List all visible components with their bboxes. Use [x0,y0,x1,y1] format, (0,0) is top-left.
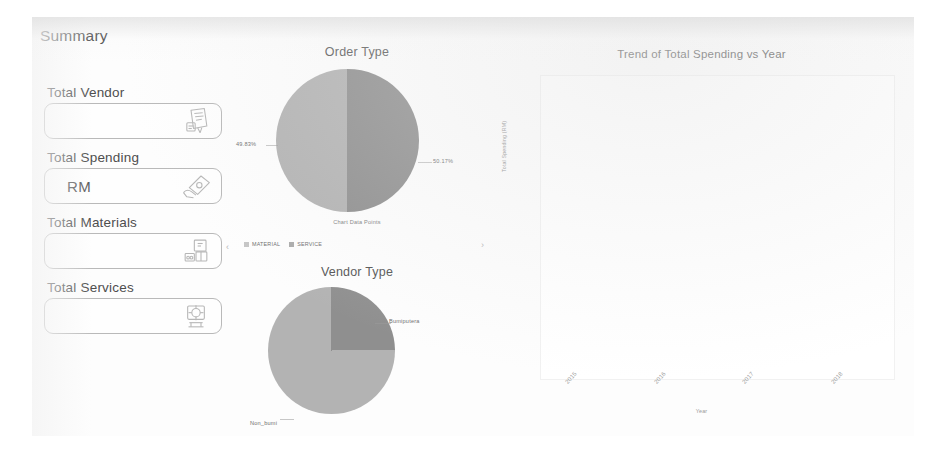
dashboard-panel: Summary Total Vendor [32,17,914,436]
trend-y-axis-label: Total Spending (RM) [501,160,507,172]
order-type-chart-title: Order Type [222,45,492,59]
trend-x-axis-ticks: 2015 2016 2017 2018 [540,381,895,407]
kpi-card-list: Total Vendor [44,85,222,345]
page-title: Summary [40,27,108,45]
service-gear-icon [179,301,213,331]
vendor-type-leader-non-bumi [280,419,294,420]
kpi-box-total-vendor[interactable] [44,103,222,139]
order-type-legend-row: ‹ MATERIAL SERVICE › [222,241,492,247]
kpi-card-total-spending[interactable]: Total Spending RM [44,150,222,204]
kpi-label-total-services: Total Services [44,280,222,295]
screenshot-root: Summary Total Vendor [0,0,946,464]
legend-label-service: SERVICE [297,241,322,247]
trend-chart-card: Trend of Total Spending vs Year Total Sp… [494,45,909,425]
kpi-box-total-materials[interactable] [44,233,222,269]
order-type-pie[interactable] [276,69,419,212]
trend-x-axis-label: Year [494,408,909,414]
order-type-legend-items: MATERIAL SERVICE [244,241,322,247]
order-type-leader-left [266,145,278,146]
legend-swatch-material-icon [244,242,249,247]
trend-plot-area[interactable] [540,75,895,380]
kpi-box-total-services[interactable] [44,298,222,334]
legend-item-service[interactable]: SERVICE [289,241,322,247]
legend-label-material: MATERIAL [252,241,280,247]
vendor-type-chart-card: Vendor Type Bumiputera Non_bumi [222,265,492,435]
kpi-card-total-services[interactable]: Total Services [44,280,222,334]
boxes-materials-icon [179,236,213,266]
kpi-box-total-spending[interactable]: RM [44,168,222,204]
order-type-slice-label-material: 49.83% [236,141,256,147]
legend-next-chevron-icon[interactable]: › [481,240,484,250]
chart-data-points-label: Chart Data Points [222,219,492,225]
hand-money-icon [179,171,213,201]
vendor-type-pie[interactable] [268,287,395,414]
kpi-label-total-vendor: Total Vendor [44,85,222,100]
legend-swatch-service-icon [289,242,294,247]
kpi-card-total-vendor[interactable]: Total Vendor [44,85,222,139]
vendor-type-chart-title: Vendor Type [222,265,492,279]
kpi-card-total-materials[interactable]: Total Materials [44,215,222,269]
order-type-chart-card: Order Type 49.83% 50.17% Chart Data Poin… [222,45,492,260]
legend-prev-chevron-icon[interactable]: ‹ [226,242,229,252]
kpi-value-total-spending: RM [45,178,91,195]
vendor-document-icon [179,106,213,136]
vendor-type-slice-label-bumiputera: Bumiputera [389,318,420,324]
legend-item-material[interactable]: MATERIAL [244,241,280,247]
kpi-label-total-spending: Total Spending [44,150,222,165]
order-type-pie-wrap: 49.83% 50.17% Chart Data Points [222,59,492,224]
trend-chart-title: Trend of Total Spending vs Year [494,45,909,60]
order-type-leader-right [418,162,432,163]
vendor-type-pie-wrap: Bumiputera Non_bumi [222,279,492,429]
kpi-label-total-materials: Total Materials [44,215,222,230]
vendor-type-slice-label-non-bumi: Non_bumi [250,420,277,426]
order-type-slice-label-service: 50.17% [433,158,453,164]
